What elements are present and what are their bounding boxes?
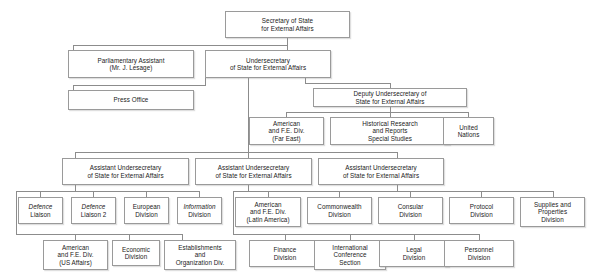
node-line: and F.E. Div.	[269, 127, 305, 134]
node-line: European	[133, 203, 161, 210]
node-line: Defence	[29, 203, 53, 210]
node-defence-liaison-2[interactable]: Defence Liaison 2	[71, 197, 116, 224]
node-line: Division	[398, 211, 424, 218]
node-historical-research[interactable]: Historical Research and Reports Special …	[330, 117, 450, 145]
node-international-conference-section[interactable]: International Conference Section	[314, 240, 386, 270]
connector-deputy-bus	[305, 83, 390, 84]
connector-aus3-leftrail-top	[233, 191, 268, 192]
node-european-division[interactable]: European Division	[124, 197, 169, 224]
connector-secretary-bus	[73, 45, 288, 46]
node-commonwealth-division[interactable]: Commonwealth Division	[307, 197, 372, 224]
node-american-fe-latin-america[interactable]: American and F.E. Div. (Latin America)	[235, 197, 301, 227]
connector-assistant-bus	[75, 152, 397, 153]
node-legal-division[interactable]: Legal Division	[379, 240, 449, 267]
node-line: Undersecretary	[230, 57, 306, 64]
node-press-office[interactable]: Press Office	[68, 90, 194, 110]
node-secretary-of-state[interactable]: Secretary of State for External Affairs	[225, 11, 350, 38]
connector-aus1-leftrail	[16, 191, 17, 234]
connector-deputy-children-bus	[286, 112, 468, 113]
node-assistant-undersecretary-2[interactable]: Assistant Undersecretary of State for Ex…	[195, 158, 312, 185]
node-line: United	[458, 124, 480, 131]
node-defence-liaison[interactable]: Defence Liaison	[18, 197, 63, 224]
node-line: Nations	[458, 131, 480, 138]
node-line: (Far East)	[269, 135, 305, 142]
node-line: Division	[534, 216, 571, 223]
node-supplies-properties-division[interactable]: Supplies and Properties Division	[520, 197, 585, 227]
node-line: Historical Research	[362, 120, 418, 127]
node-line: Finance	[274, 246, 297, 253]
node-line: Assistant Undersecretary	[87, 164, 163, 171]
node-line: Division	[274, 254, 297, 261]
node-finance-division[interactable]: Finance Division	[249, 240, 321, 267]
node-line: and F.E. Div.	[58, 251, 94, 258]
node-line: Division	[470, 211, 494, 218]
org-chart: Secretary of State for External Affairs …	[0, 0, 600, 275]
node-line: (US Affairs)	[58, 259, 94, 266]
node-line: Division	[133, 211, 161, 218]
connector-press-office-bus	[73, 85, 206, 86]
node-parliamentary-assistant[interactable]: Parliamentary Assistant (Mr. J. Lesage)	[68, 50, 194, 78]
node-line: (Latin America)	[246, 216, 289, 223]
node-line: Special Studies	[362, 135, 418, 142]
node-line: Economic	[122, 246, 150, 253]
node-line: Section	[332, 259, 367, 266]
node-line: American	[269, 120, 305, 127]
connector-undersecretary-left-down	[205, 78, 206, 85]
node-american-fe-us-affairs[interactable]: American and F.E. Div. (US Affairs)	[43, 240, 108, 270]
connector-aus3-rowb-bus	[233, 234, 479, 235]
node-line: Consular	[398, 203, 424, 210]
node-establishments-organization[interactable]: Establishments and Organization Div.	[164, 240, 236, 270]
node-united-nations[interactable]: United Nations	[443, 117, 494, 145]
node-american-fe-far-east[interactable]: American and F.E. Div. (Far East)	[249, 117, 324, 145]
node-line: Division	[122, 253, 150, 260]
node-line: of State for External Affairs	[343, 172, 419, 179]
connector-aus1-rowb-bus	[16, 234, 182, 235]
connector-aus1-children-bus	[40, 191, 199, 192]
node-deputy-undersecretary[interactable]: Deputy Undersecretary of State for Exter…	[313, 88, 467, 107]
node-line: and F.E. Div.	[246, 208, 289, 215]
node-assistant-undersecretary-3[interactable]: Assistant Undersecretary of State for Ex…	[318, 158, 444, 185]
node-line: American	[58, 244, 94, 251]
node-line: Legal	[403, 246, 425, 253]
node-line: Properties	[534, 208, 571, 215]
node-line: Division	[317, 211, 361, 218]
node-line: Secretary of State	[261, 17, 313, 24]
node-line: Division	[183, 211, 215, 218]
node-assistant-undersecretary-1[interactable]: Assistant Undersecretary of State for Ex…	[62, 158, 189, 185]
node-line: Liaison 2	[81, 211, 107, 218]
node-line: Supplies and	[534, 201, 571, 208]
node-line: Commonwealth	[317, 203, 361, 210]
node-line: Assistant Undersecretary	[343, 164, 419, 171]
node-line: Liaison	[29, 211, 53, 218]
node-line: Establishments	[176, 244, 225, 251]
node-line: Deputy Undersecretary of	[354, 90, 427, 97]
node-line: Conference	[332, 251, 367, 258]
node-line: International	[332, 244, 367, 251]
node-line: of State for External Affairs	[230, 64, 306, 71]
node-line: American	[246, 201, 289, 208]
node-line: Defence	[81, 203, 107, 210]
node-line: and Reports	[362, 127, 418, 134]
node-line: State for External Affairs	[354, 98, 427, 105]
node-line: of State for External Affairs	[87, 172, 163, 179]
node-protocol-division[interactable]: Protocol Division	[449, 197, 514, 224]
node-consular-division[interactable]: Consular Division	[378, 197, 443, 224]
node-line: Assistant Undersecretary	[215, 164, 291, 171]
node-line: Division	[465, 254, 494, 261]
node-personnel-division[interactable]: Personnel Division	[444, 240, 514, 267]
node-information-division[interactable]: Information Division	[177, 197, 222, 224]
node-line: (Mr. J. Lesage)	[98, 64, 165, 71]
node-line: Organization Div.	[176, 259, 225, 266]
node-economic-division[interactable]: Economic Division	[112, 240, 160, 266]
connector-aus3-leftrail	[233, 191, 234, 234]
node-line: Division	[403, 254, 425, 261]
connector-secretary-down	[287, 38, 288, 45]
node-line: Information	[183, 203, 215, 210]
node-line: of State for External Affairs	[215, 172, 291, 179]
node-line: Press Office	[114, 96, 149, 103]
node-undersecretary[interactable]: Undersecretary of State for External Aff…	[205, 50, 331, 78]
node-line: and	[176, 251, 225, 258]
node-line: Personnel	[465, 246, 494, 253]
connector-aus1-leftrail-top	[16, 191, 40, 192]
node-line: Protocol	[470, 203, 494, 210]
